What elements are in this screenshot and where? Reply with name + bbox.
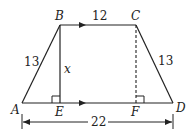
trapezoid-diagram: B C A D E F 12 13 13 x 22 <box>0 0 196 137</box>
parallel-arrow-top-icon <box>79 22 86 28</box>
label-left-side: 13 <box>24 55 39 69</box>
label-right-side: 13 <box>158 54 173 68</box>
label-top-length: 12 <box>92 9 107 23</box>
vertex-label-e: E <box>54 105 64 119</box>
label-base-length: 22 <box>91 115 106 129</box>
dim-arrow-left-icon <box>23 119 30 125</box>
dim-arrow-right-icon <box>165 119 172 125</box>
parallel-arrow-bottom-icon <box>79 100 86 106</box>
label-height-x: x <box>64 62 71 76</box>
right-angle-f-icon <box>136 96 144 103</box>
vertex-label-c: C <box>131 9 140 23</box>
vertex-label-f: F <box>130 105 140 119</box>
right-angle-e-icon <box>52 96 60 103</box>
vertex-label-b: B <box>54 9 64 23</box>
vertex-label-a: A <box>10 103 20 117</box>
vertex-label-d: D <box>175 101 186 115</box>
